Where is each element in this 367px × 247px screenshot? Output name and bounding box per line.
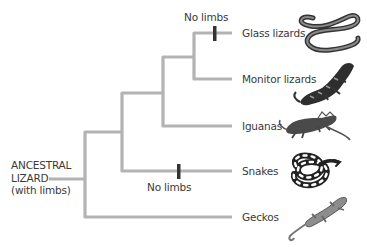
taxon-label-iguanas: Iguanas [242, 120, 282, 132]
trait-label-snakes: No limbs [147, 181, 191, 193]
root-node [85, 132, 232, 217]
ancestral-label-line2: LIZARD [11, 172, 71, 185]
no-limbs-mark-glass [213, 26, 217, 41]
taxon-label-snakes: Snakes [242, 165, 278, 177]
trait-label-glass-lizards: No limbs [184, 11, 228, 23]
taxon-label-monitor-lizards: Monitor lizards [242, 73, 316, 85]
no-limbs-mark-snakes [177, 164, 181, 179]
glass-lizard-icon [301, 15, 358, 50]
snake-icon [294, 155, 340, 185]
node-2 [163, 57, 232, 126]
ancestral-lizard-label: ANCESTRAL LIZARD (with limbs) [11, 159, 71, 197]
node-3 [122, 93, 232, 171]
ancestral-label-line1: ANCESTRAL [11, 159, 71, 172]
taxon-label-glass-lizards: Glass lizards [242, 27, 305, 39]
taxon-label-geckos: Geckos [242, 211, 279, 223]
ancestral-label-line3: (with limbs) [11, 184, 71, 197]
iguana-icon [279, 112, 350, 140]
gecko-icon [289, 197, 346, 240]
phylogenetic-tree [0, 0, 367, 247]
